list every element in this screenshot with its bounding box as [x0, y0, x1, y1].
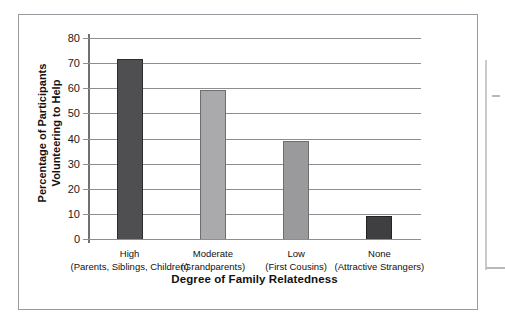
y-axis-title-line-2: Volunteering to Help	[49, 58, 63, 208]
x-label-main: High	[120, 248, 140, 259]
y-axis-label-80: 80	[68, 33, 80, 44]
x-axis-baseline	[88, 239, 421, 240]
y-axis-title-line-1: Percentage of Participants	[35, 58, 49, 208]
x-label-sub: (First Cousins)	[265, 261, 327, 274]
x-label-sub: (Parents, Siblings, Children)	[70, 261, 188, 274]
y-axis-label-50: 50	[68, 108, 80, 119]
x-label-main: Moderate	[193, 248, 233, 259]
scan-artifact-edge	[485, 60, 487, 270]
y-tick-80	[83, 38, 88, 39]
y-axis-label-70: 70	[68, 58, 80, 69]
x-label-sub: (Grandparents)	[181, 261, 245, 274]
y-axis-label-60: 60	[68, 83, 80, 94]
y-tick-10	[83, 214, 88, 215]
x-label-low: Low(First Cousins)	[265, 248, 327, 273]
bar-chart: Percentage of Participants Volunteering …	[19, 15, 479, 311]
x-axis-title: Degree of Family Relatedness	[88, 273, 421, 285]
scan-artifact-rule	[486, 267, 505, 269]
scan-artifact-arrow	[492, 95, 500, 97]
y-axis-label-10: 10	[68, 208, 80, 219]
x-label-none: None(Attractive Strangers)	[335, 248, 425, 273]
x-label-sub: (Attractive Strangers)	[335, 261, 425, 274]
gridline-80	[88, 38, 421, 39]
y-tick-40	[83, 139, 88, 140]
y-tick-30	[83, 164, 88, 165]
figure-frame: Percentage of Participants Volunteering …	[18, 14, 478, 310]
x-label-high: High(Parents, Siblings, Children)	[70, 248, 188, 273]
x-label-main: Low	[287, 248, 304, 259]
y-tick-70	[83, 63, 88, 64]
bar-moderate	[200, 90, 226, 239]
y-tick-20	[83, 189, 88, 190]
x-label-moderate: Moderate(Grandparents)	[181, 248, 245, 273]
bar-none	[366, 216, 392, 239]
bar-high	[117, 59, 143, 239]
y-tick-50	[83, 113, 88, 114]
y-axis-label-0: 0	[74, 234, 80, 245]
x-label-main: None	[368, 248, 391, 259]
y-tick-60	[83, 88, 88, 89]
y-axis-title: Percentage of Participants Volunteering …	[35, 58, 63, 208]
plot-area: 01020304050607080 High(Parents, Siblings…	[88, 38, 421, 239]
bar-low	[283, 141, 309, 239]
y-axis-label-20: 20	[68, 183, 80, 194]
y-axis-label-40: 40	[68, 133, 80, 144]
y-tick-0	[83, 239, 88, 240]
y-axis-label-30: 30	[68, 158, 80, 169]
